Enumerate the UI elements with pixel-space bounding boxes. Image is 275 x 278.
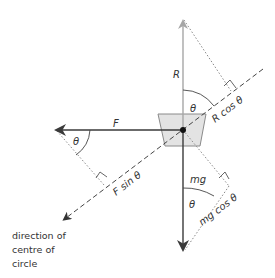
theta-arc-top [183, 90, 214, 106]
f-sin-label: F sin θ [111, 169, 144, 197]
theta-left-label: θ [73, 136, 79, 147]
centre-of-mass-dot [180, 127, 186, 133]
right-angle-marker-r [224, 80, 236, 88]
right-angle-marker-mg [219, 172, 229, 179]
caption-line-1: direction of [12, 229, 66, 243]
caption-line-2: centre of [12, 243, 66, 257]
r-cos-label: R cos θ [210, 94, 246, 125]
theta-bottom-label: θ [189, 199, 195, 210]
theta-arc-bottom [183, 188, 214, 196]
f-label: F [113, 118, 119, 129]
centre-direction-caption: direction of centre of circle [12, 229, 66, 271]
r-projection-line [184, 20, 231, 91]
caption-line-3: circle [12, 257, 66, 271]
mg-cos-label: mg cos θ [197, 191, 240, 227]
right-angle-marker-f [96, 172, 107, 178]
mg-label: mg [190, 174, 206, 185]
r-label: R [173, 69, 180, 80]
theta-top-label: θ [190, 103, 196, 114]
